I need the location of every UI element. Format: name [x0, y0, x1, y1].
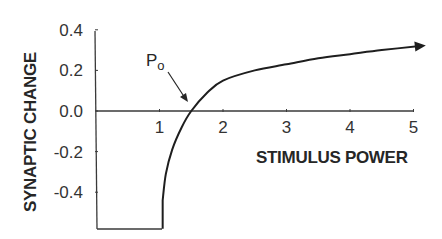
annotation-arrow: [168, 72, 185, 98]
data-curve: [163, 46, 420, 229]
x-ticks: 12345: [155, 109, 418, 137]
curve-arrowhead-icon: [414, 42, 425, 52]
x-tick-label: 3: [282, 118, 291, 137]
y-axis-title: SYNAPTIC CHANGE: [21, 52, 40, 212]
y-tick-label: 0.4: [59, 21, 83, 40]
chart: 0.40.20.0-0.2-0.4 12345 Po STIMULUS POWE…: [0, 0, 442, 239]
x-tick-label: 2: [218, 118, 227, 137]
y-ticks: 0.40.20.0-0.2-0.4: [54, 21, 98, 202]
y-tick-label: 0.0: [59, 102, 83, 121]
x-tick-label: 1: [155, 118, 164, 137]
annotation-arrowhead-icon: [180, 93, 188, 102]
x-tick-label: 4: [345, 118, 354, 137]
y-tick-label: -0.4: [54, 183, 83, 202]
annotation-p0: Po: [146, 51, 165, 73]
y-tick-label: 0.2: [59, 61, 83, 80]
x-axis-title: STIMULUS POWER: [256, 148, 408, 167]
y-tick-label: -0.2: [54, 143, 83, 162]
x-tick-label: 5: [409, 118, 418, 137]
y-axis: [95, 31, 97, 229]
